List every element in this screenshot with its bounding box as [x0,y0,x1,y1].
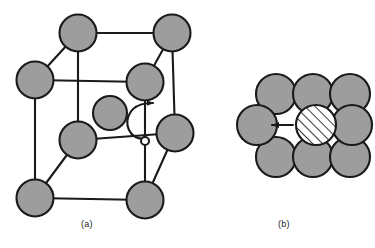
corner-atom-front-mid-left [60,122,97,159]
corner-atom-front-bottom-right [127,182,164,219]
close-packed-plane-panel [237,74,372,177]
crystal-structure-figure [0,0,375,248]
interstitial-site-marker [141,137,149,145]
bcc-unit-cell-panel [17,15,194,219]
corner-atom-front-bottom-left [17,180,54,217]
caption-b: (b) [278,219,290,229]
corner-atom-front-top-right [127,64,164,101]
body-center-atom [93,96,127,130]
caption-a: (a) [81,219,93,229]
figure-root: (a) (b) [0,0,375,248]
corner-atom-front-top-left [17,62,54,99]
hatched-interstitial-atom [296,105,336,145]
corner-atom-back-top-left [60,15,97,52]
corner-atom-back-bottom-right [157,115,194,152]
curved-migration-arrow [127,103,153,139]
host-atom-middle-right [332,105,372,145]
corner-atom-back-top-right [154,15,191,52]
